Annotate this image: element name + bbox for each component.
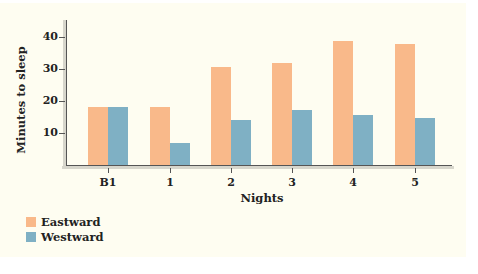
x-axis-label: Nights [240, 191, 283, 205]
x-tick-label: 5 [400, 176, 430, 189]
bar-eastward-1 [150, 107, 170, 165]
bar-eastward-2 [211, 67, 231, 165]
y-tick [59, 101, 65, 102]
legend-item-westward: Westward [26, 230, 104, 244]
y-tick [59, 133, 65, 134]
x-tick [170, 168, 171, 173]
x-tick [415, 168, 416, 173]
bar-eastward-4 [333, 41, 353, 165]
y-tick-label: 30 [34, 63, 58, 75]
y-tick-label: 40 [34, 31, 58, 43]
x-axis-shadow [62, 166, 454, 169]
x-tick-label: 4 [338, 176, 368, 189]
x-tick-label: 3 [277, 176, 307, 189]
bar-westward-3 [292, 110, 312, 165]
bar-westward-4 [353, 115, 373, 165]
x-tick-label: 2 [216, 176, 246, 189]
bar-eastward-5 [395, 44, 415, 165]
bar-westward-1 [170, 143, 190, 165]
legend-label-westward: Westward [41, 230, 104, 244]
y-axis-label: Minutes to sleep [14, 46, 28, 153]
legend-item-eastward: Eastward [26, 215, 100, 229]
bar-eastward-b1 [88, 107, 108, 165]
x-tick-label: B1 [93, 176, 123, 189]
y-tick-label: 10 [34, 127, 58, 139]
legend-swatch-eastward [26, 217, 36, 227]
x-tick [353, 168, 354, 173]
bar-westward-5 [415, 118, 435, 165]
x-tick [292, 168, 293, 173]
x-tick [231, 168, 232, 173]
y-tick-label: 20 [34, 95, 58, 107]
y-axis [66, 20, 67, 166]
x-tick [108, 168, 109, 173]
x-tick-label: 1 [155, 176, 185, 189]
bar-westward-b1 [108, 107, 128, 165]
legend-label-eastward: Eastward [41, 215, 100, 229]
y-tick [59, 69, 65, 70]
y-tick [59, 37, 65, 38]
x-axis [66, 165, 452, 166]
bar-eastward-3 [272, 63, 292, 165]
bar-westward-2 [231, 120, 251, 165]
legend-swatch-westward [26, 232, 36, 242]
